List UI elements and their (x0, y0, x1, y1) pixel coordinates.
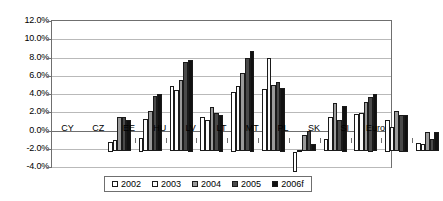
chart-legend: 20022003200420052006f (104, 176, 312, 192)
legend-label: 2003 (161, 179, 181, 189)
bar-group (412, 42, 443, 188)
bar-group (227, 42, 258, 188)
legend-label: 2006f (281, 179, 304, 189)
x-axis-label-lv: LV (175, 123, 206, 133)
gridline (52, 39, 391, 40)
x-axis-category-labels: CYCZEEHULVLTMTPLSKSIEuro (52, 123, 391, 139)
x-axis-label-pl: PL (268, 123, 299, 133)
x-axis-label-mt: MT (237, 123, 268, 133)
legend-item[interactable]: 2005 (232, 179, 261, 189)
y-axis-tick-mark (47, 112, 51, 113)
legend-item[interactable]: 2003 (152, 179, 181, 189)
legend-item[interactable]: 2006f (272, 179, 304, 189)
legend-label: 2005 (241, 179, 261, 189)
bar-group (258, 42, 289, 188)
x-axis-label-ee: EE (114, 123, 145, 133)
legend-swatch-icon (152, 181, 158, 187)
bar (280, 88, 285, 152)
y-axis-tick-mark (47, 94, 51, 95)
bar-group (289, 42, 320, 188)
bar (293, 152, 298, 173)
bar-group (104, 42, 135, 188)
bar (434, 132, 439, 151)
x-axis-label-si: SI (329, 123, 360, 133)
legend-label: 2004 (201, 179, 221, 189)
y-axis-tick-label: 2.0% (29, 106, 49, 116)
y-axis-tick-label: 12.0% (24, 15, 49, 25)
x-axis-label-hu: HU (144, 123, 175, 133)
legend-swatch-icon (272, 181, 278, 187)
x-axis-label-cy: CY (52, 123, 83, 133)
bar-group (351, 42, 382, 188)
y-axis-tick-label: 10.0% (24, 33, 49, 43)
y-axis-tick-label: 0.0% (29, 125, 49, 135)
y-axis-tick-mark (47, 167, 51, 168)
y-axis-tick-mark (47, 58, 51, 59)
bar-group (196, 42, 227, 188)
y-axis-tick-label: 6.0% (29, 70, 49, 80)
legend-swatch-icon (232, 181, 238, 187)
x-axis-label-cz: CZ (83, 123, 114, 133)
y-axis-tick-label: 8.0% (29, 52, 49, 62)
x-axis-label-euro: Euro (360, 123, 391, 133)
x-axis-label-lt: LT (206, 123, 237, 133)
y-axis-tick-label: 4.0% (29, 88, 49, 98)
bar-groups (104, 42, 443, 188)
x-axis-label-sk: SK (299, 123, 330, 133)
bar-group (135, 42, 166, 188)
legend-swatch-icon (112, 181, 118, 187)
bar (311, 144, 316, 151)
legend-label: 2002 (121, 179, 141, 189)
y-axis-tick-mark (47, 39, 51, 40)
legend-item[interactable]: 2002 (112, 179, 141, 189)
y-axis-tick-label: -2.0% (26, 143, 49, 153)
bar (404, 115, 409, 152)
legend-item[interactable]: 2004 (192, 179, 221, 189)
bar-group (381, 42, 412, 188)
y-axis-tick-label: -4.0% (26, 161, 49, 171)
legend-swatch-icon (192, 181, 198, 187)
y-axis-tick-mark (47, 131, 51, 132)
y-axis-tick-mark (47, 149, 51, 150)
y-axis-tick-mark (47, 21, 51, 22)
bar-group (320, 42, 351, 188)
y-axis-tick-mark (47, 76, 51, 77)
plot-area (51, 20, 392, 168)
bar-group (166, 42, 197, 188)
